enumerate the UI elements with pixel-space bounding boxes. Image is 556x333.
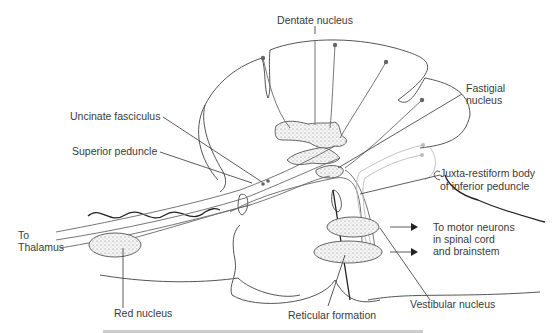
label-motor-neurons-2: in spinal cord xyxy=(433,233,495,245)
label-fastigial-nucleus-1: Fastigial xyxy=(466,82,505,94)
label-superior-peduncle: Superior peduncle xyxy=(72,145,157,157)
label-motor-neurons-1: To motor neurons xyxy=(433,221,515,233)
label-reticular-formation: Reticular formation xyxy=(288,309,376,321)
dentate-nucleus-shape xyxy=(275,121,346,148)
red-nucleus-shape xyxy=(89,233,141,257)
label-uncinate-fasciculus: Uncinate fasciculus xyxy=(70,110,160,122)
cerebellar-nuclei xyxy=(275,121,346,178)
label-vestibular-nucleus: Vestibular nucleus xyxy=(410,298,495,310)
label-red-nucleus: Red nucleus xyxy=(114,307,172,319)
reticular-formation-shape xyxy=(314,241,382,263)
diagram-canvas: Dentate nucleus Fastigial nucleus Uncina… xyxy=(0,0,556,333)
label-to-thalamus-2: Thalamus xyxy=(18,241,64,253)
label-to-thalamus-1: To xyxy=(18,229,29,241)
output-arrows xyxy=(390,223,418,256)
cerebellar-efferents-diagram: Dentate nucleus Fastigial nucleus Uncina… xyxy=(0,0,556,333)
leader-lines xyxy=(123,26,462,308)
label-dentate-nucleus: Dentate nucleus xyxy=(277,14,353,26)
cortical-fibers xyxy=(261,40,424,168)
vestibular-nucleus-shape xyxy=(327,217,379,237)
label-juxta-restiform-1: Juxta-restiform body xyxy=(440,167,536,179)
label-fastigial-nucleus-2: nucleus xyxy=(466,94,502,106)
label-motor-neurons-3: and brainstem xyxy=(433,245,500,257)
label-juxta-restiform-2: of inferior peduncle xyxy=(440,180,529,192)
